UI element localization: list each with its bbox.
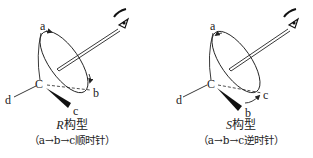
wedge-bond-c bbox=[46, 88, 71, 108]
viewing-rod bbox=[57, 69, 59, 71]
label-center-c: C bbox=[207, 77, 215, 91]
caption-s: S构型 （a→b→c逆时针） bbox=[187, 118, 295, 147]
label-a: a bbox=[210, 19, 216, 33]
label-d: d bbox=[5, 93, 11, 107]
arrow-icon bbox=[89, 74, 90, 82]
label-c: c bbox=[263, 88, 268, 102]
bond-a bbox=[209, 33, 213, 80]
caption-r-subtitle: （a→b→c顺时针） bbox=[18, 133, 126, 147]
r-configuration: a C d b c bbox=[5, 9, 128, 118]
bond-d bbox=[14, 86, 36, 97]
label-b: b bbox=[93, 86, 99, 100]
eye-icon bbox=[284, 9, 298, 28]
s-configuration: a C d c b bbox=[176, 9, 298, 120]
arrow-icon bbox=[216, 33, 222, 35]
caption-s-subtitle: （a→b→c逆时针） bbox=[187, 133, 295, 147]
eye-icon bbox=[114, 9, 128, 28]
bond-a bbox=[38, 33, 41, 80]
arrow-icon bbox=[245, 96, 259, 103]
wedge-bond-b bbox=[217, 88, 242, 111]
label-a: a bbox=[40, 19, 46, 33]
caption-s-title: S构型 bbox=[187, 118, 295, 133]
label-d: d bbox=[176, 93, 182, 107]
caption-r: R构型 （a→b→c顺时针） bbox=[18, 118, 126, 147]
bond-d bbox=[183, 85, 207, 97]
viewing-rod bbox=[229, 69, 231, 71]
caption-r-title: R构型 bbox=[18, 118, 126, 133]
label-c: c bbox=[73, 104, 78, 118]
label-center-c: C bbox=[35, 77, 43, 91]
